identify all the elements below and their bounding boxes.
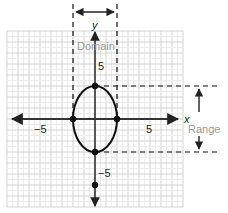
- y-tick-neg5: −5: [98, 167, 111, 179]
- point-marker: [70, 116, 76, 122]
- x-tick-neg5: −5: [34, 123, 47, 135]
- point-marker: [92, 83, 98, 89]
- y-tick-5: 5: [98, 60, 104, 72]
- range-label: Range: [188, 123, 220, 135]
- domain-label: Domain: [77, 40, 115, 52]
- point-marker: [114, 116, 120, 122]
- ellipse-domain-range-diagram: y x −5 5 5 −5 Domain Range: [0, 0, 228, 213]
- point-marker: [92, 182, 98, 188]
- point-marker: [92, 149, 98, 155]
- x-tick-5: 5: [146, 123, 152, 135]
- y-axis-label: y: [91, 19, 99, 31]
